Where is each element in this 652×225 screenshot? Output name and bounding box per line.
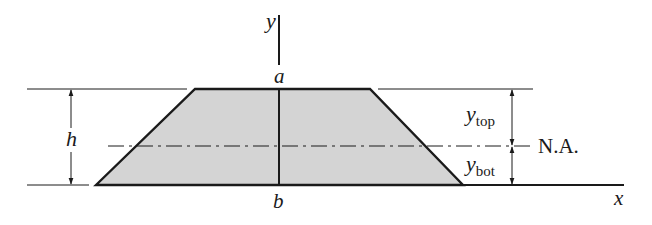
point-b-label: b [273,191,284,212]
y-axis-label: y [266,10,276,32]
ytop-subscript: top [476,113,495,129]
height-label: h [65,128,78,150]
x-axis-label: x [614,188,623,209]
ybot-label: ybot [466,153,495,175]
ytop-label: ytop [466,103,495,125]
point-a-label: a [274,66,285,87]
trapezoid-section-diagram: y a b x h ytop ybot N.A. [0,0,652,225]
ybot-subscript: bot [476,163,495,179]
neutral-axis-label: N.A. [538,136,579,157]
ytop-main: y [466,101,476,126]
ybot-main: y [466,151,476,176]
diagram-canvas [0,0,652,225]
